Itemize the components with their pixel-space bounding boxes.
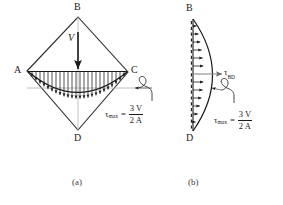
vertex-label-b-b: B: [186, 3, 193, 13]
vertex-label-a-a: A: [14, 65, 21, 75]
fraction-a: 3 V 2 A: [129, 104, 143, 124]
formula-tau-max-b: τmax = 3 V 2 A: [214, 110, 252, 130]
equals-sign-b: =: [230, 116, 235, 125]
force-label-v: V: [68, 33, 74, 43]
axis-label-tau-bd: τBD: [224, 68, 235, 79]
caption-b: (b): [188, 178, 199, 187]
fraction-b: 3 V 2 A: [238, 110, 252, 130]
vertex-label-d-a: D: [74, 133, 81, 143]
fraction-numerator-b: 3 V: [238, 110, 252, 119]
tau-symbol-b: τmax: [214, 116, 227, 125]
vertex-label-c-a: C: [131, 65, 138, 75]
vertex-label-b-a: B: [74, 2, 81, 12]
figure-container: B A C D V τmax = 3 V 2 A B D τBD τmax = …: [0, 0, 283, 205]
tau-symbol-a: τmax: [105, 110, 118, 119]
leader-line-tau-max-b: [212, 78, 234, 103]
formula-tau-max-a: τmax = 3 V 2 A: [105, 104, 143, 124]
fraction-denominator-a: 2 A: [129, 116, 143, 125]
vertex-label-d-b: D: [186, 133, 193, 143]
fraction-numerator-a: 3 V: [129, 104, 143, 113]
equals-sign-a: =: [121, 110, 126, 119]
fraction-denominator-b: 2 A: [238, 122, 252, 131]
caption-a: (a): [72, 178, 82, 187]
leader-line-tau-max-a: [135, 76, 152, 101]
